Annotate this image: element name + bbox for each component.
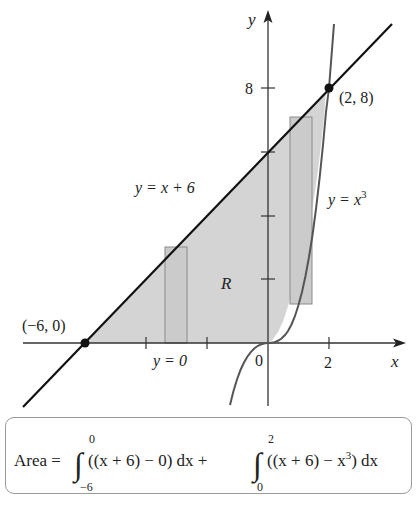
formula-lhs: Area = (14, 451, 61, 470)
integral-1-upper-limit: 0 (89, 432, 95, 446)
integral-2-upper-limit: 2 (268, 432, 274, 446)
integral-sign-2: ∫ (251, 446, 264, 484)
integral-sign-1: ∫ (72, 446, 85, 484)
integral-1-body: ((x + 6) − 0) dx + (88, 451, 207, 470)
integral-2-body: ((x + 6) − x3) dx (267, 449, 379, 470)
area-formula: Area = ∫ 0 −6 ((x + 6) − 0) dx + ∫ 2 0 (… (0, 0, 419, 511)
integral-1-lower-limit: −6 (80, 480, 93, 494)
integral-2-lower-limit: 0 (257, 480, 263, 494)
